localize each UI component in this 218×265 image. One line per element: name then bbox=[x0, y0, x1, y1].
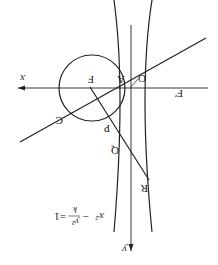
point-r-label: R bbox=[140, 183, 148, 195]
hyperbola-circle-diagram: x y O A F F′ P Q R C x² − y² k =1 bbox=[0, 0, 218, 265]
origin-label: O bbox=[138, 73, 146, 85]
hyperbola-left-branch bbox=[145, 0, 152, 232]
point-a-label: A bbox=[117, 74, 125, 86]
y-axis-arrow-icon bbox=[129, 244, 134, 251]
equation-frac-den: k bbox=[72, 205, 77, 215]
origin-leader bbox=[131, 79, 138, 87]
hyperbola-equation: x² − y² k =1 bbox=[54, 205, 105, 227]
equation-frac-num: y² bbox=[72, 217, 80, 227]
x-axis-label: x bbox=[20, 73, 26, 85]
circle-c-label: C bbox=[56, 115, 63, 127]
y-axis-label: y bbox=[122, 244, 128, 256]
point-q-label: Q bbox=[111, 145, 119, 157]
hyperbola-right-branch bbox=[114, 0, 120, 232]
point-p-label: P bbox=[104, 123, 110, 135]
equation-equals-one: =1 bbox=[54, 211, 66, 223]
point-f-prime-label: F′ bbox=[174, 88, 183, 100]
equation-x2: x² bbox=[95, 211, 105, 223]
x-axis-arrow-icon bbox=[18, 86, 25, 91]
equation-minus: − bbox=[83, 211, 89, 223]
point-f-label: F bbox=[88, 74, 94, 86]
